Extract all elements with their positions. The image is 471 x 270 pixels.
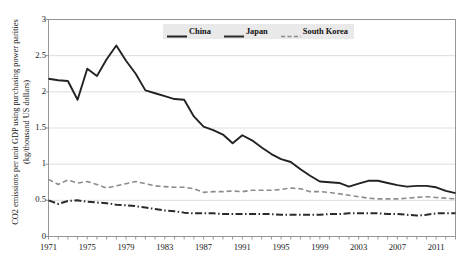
chart-legend: ChinaJapanSouth Korea (163, 24, 354, 39)
series-line-china (49, 46, 456, 194)
legend-item-south-korea[interactable]: South Korea (281, 27, 348, 36)
data-series (49, 46, 456, 216)
legend-line-swatch-icon (167, 27, 187, 36)
legend-item-china[interactable]: China (167, 27, 211, 36)
legend-label: South Korea (303, 27, 348, 36)
legend-label: China (189, 27, 211, 36)
legend-line-swatch-icon (281, 27, 301, 36)
chart-container: CO2 emissions per unit GDP using purchas… (0, 0, 471, 270)
grid-lines (49, 20, 456, 201)
legend-line-swatch-icon (224, 27, 244, 36)
series-line-japan (49, 200, 456, 215)
legend-item-japan[interactable]: Japan (224, 27, 268, 36)
axis-tick-marks (46, 20, 456, 240)
legend-label: Japan (246, 27, 268, 36)
series-line-south-korea (49, 179, 456, 199)
